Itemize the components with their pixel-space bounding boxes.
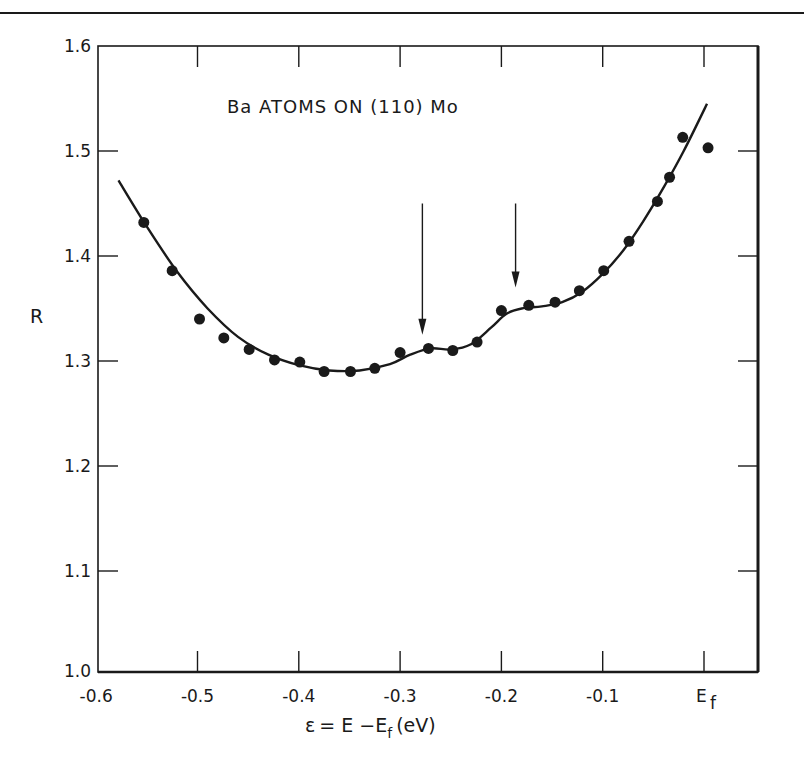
x-axis-label-text: ε= E −Ef(eV) bbox=[305, 714, 436, 741]
data-point bbox=[423, 343, 434, 354]
data-point bbox=[447, 345, 458, 356]
data-point bbox=[664, 172, 675, 183]
data-point bbox=[369, 363, 380, 374]
data-point bbox=[523, 300, 534, 311]
data-point bbox=[703, 142, 714, 153]
data-point bbox=[550, 297, 561, 308]
y-tick-label: 1.5 bbox=[64, 141, 91, 161]
data-point bbox=[138, 217, 149, 228]
data-point bbox=[598, 265, 609, 276]
data-point bbox=[677, 132, 688, 143]
x-tick-label: -0.4 bbox=[282, 686, 315, 706]
epsilon-symbol: ε bbox=[305, 714, 315, 736]
data-point bbox=[345, 366, 356, 377]
data-point bbox=[319, 366, 330, 377]
data-point bbox=[218, 332, 229, 343]
y-tick-label: 1.6 bbox=[64, 36, 91, 56]
chart-figure: -0.6-0.5-0.4-0.3-0.2-0.1Ef1.01.11.21.31.… bbox=[0, 0, 804, 767]
x-axis-label: ε= E −Ef(eV) bbox=[305, 714, 436, 741]
arrow-head-icon bbox=[512, 272, 520, 288]
x-tick-label: -0.6 bbox=[80, 686, 113, 706]
x-tick-label: -0.2 bbox=[485, 686, 518, 706]
data-point bbox=[496, 305, 507, 316]
data-point bbox=[652, 196, 663, 207]
y-tick-label: 1.3 bbox=[64, 351, 91, 371]
data-point bbox=[167, 265, 178, 276]
y-tick-label: 1.4 bbox=[64, 246, 91, 266]
axis-tick-labels: -0.6-0.5-0.4-0.3-0.2-0.1Ef1.01.11.21.31.… bbox=[64, 36, 717, 713]
x-tick-label: -0.1 bbox=[586, 686, 619, 706]
data-point bbox=[395, 347, 406, 358]
data-point bbox=[624, 236, 635, 247]
arrow-head-icon bbox=[418, 319, 426, 335]
y-axis-label: R bbox=[30, 305, 43, 327]
data-points bbox=[138, 132, 713, 377]
x-tick-label: -0.3 bbox=[384, 686, 417, 706]
y-tick-label: 1.0 bbox=[64, 661, 91, 681]
y-tick-label: 1.2 bbox=[64, 456, 91, 476]
data-point bbox=[294, 357, 305, 368]
data-point bbox=[194, 314, 205, 325]
chart-title: Ba ATOMS ON (110) Mo bbox=[227, 96, 459, 117]
data-point bbox=[269, 354, 280, 365]
data-point bbox=[244, 344, 255, 355]
fitted-curve bbox=[119, 104, 708, 371]
x-tick-label-subscript: f bbox=[710, 693, 717, 713]
axis-ticks bbox=[98, 46, 758, 672]
data-point bbox=[574, 285, 585, 296]
x-tick-label: -0.5 bbox=[181, 686, 214, 706]
plot-frame bbox=[98, 46, 758, 672]
data-point bbox=[472, 337, 483, 348]
x-tick-label: E bbox=[696, 686, 707, 706]
y-tick-label: 1.1 bbox=[64, 561, 91, 581]
